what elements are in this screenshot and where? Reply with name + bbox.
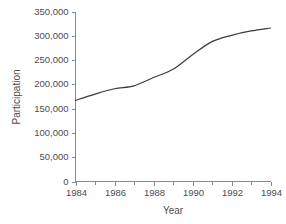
y-axis-ticks [72,13,76,183]
y-axis-tick-label: 150,000 [34,103,68,114]
x-axis-tick-label: 1994 [261,187,282,198]
y-axis-tick-label: 300,000 [34,30,68,41]
x-axis-tick-label: 1984 [66,187,87,198]
x-axis-group: 198419861988199019921994 [66,182,282,198]
x-axis-title: Year [163,205,184,216]
y-axis-tick-label: 50,000 [39,151,68,162]
y-axis-tick-label: 100,000 [34,127,68,138]
y-axis-group: 050,000100,000150,000200,000250,000300,0… [34,6,75,187]
x-axis-tick-label: 1992 [222,187,243,198]
y-axis-tick-label: 350,000 [34,6,68,17]
y-axis-title: Participation [11,69,22,124]
y-axis-tick-label: 0 [63,176,68,187]
participation-series-line [76,28,271,100]
y-axis-tick-labels: 050,000100,000150,000200,000250,000300,0… [34,6,68,187]
y-axis-tick-label: 250,000 [34,54,68,65]
x-axis-tick-labels: 198419861988199019921994 [66,187,282,198]
x-axis-tick-label: 1988 [144,187,165,198]
y-axis-tick-label: 200,000 [34,78,68,89]
participation-line-chart: 050,000100,000150,000200,000250,000300,0… [0,0,286,224]
x-axis-tick-label: 1990 [183,187,204,198]
chart-canvas: 050,000100,000150,000200,000250,000300,0… [0,0,286,224]
x-axis-ticks [77,182,272,186]
x-axis-tick-label: 1986 [105,187,126,198]
